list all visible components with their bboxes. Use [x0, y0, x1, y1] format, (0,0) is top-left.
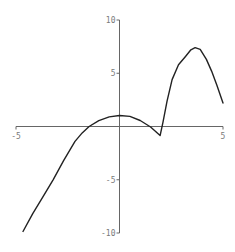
y-tick-label: 5 — [111, 69, 116, 78]
series-line — [23, 48, 223, 232]
y-tick-label: 10 — [106, 16, 116, 25]
x-tick-label: -5 — [11, 132, 21, 141]
y-tick-label: -5 — [106, 176, 116, 185]
series-layer — [23, 48, 223, 232]
x-tick-label: 5 — [221, 132, 226, 141]
y-tick-label: -10 — [101, 229, 116, 238]
x-ticks: -55 — [11, 127, 225, 141]
line-chart: -55 105-5-10 — [0, 0, 235, 252]
